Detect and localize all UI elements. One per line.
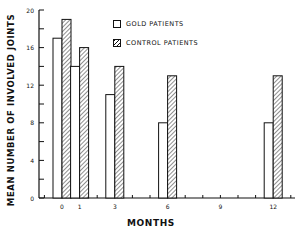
svg-text:12: 12: [269, 203, 277, 210]
hatched-swatch-icon: [113, 39, 121, 47]
x-axis-label: MONTHS: [127, 218, 175, 228]
svg-text:9: 9: [218, 203, 222, 210]
svg-text:6: 6: [166, 203, 170, 210]
legend-item-gold: GOLD PATIENTS: [113, 18, 198, 29]
bar-control: [115, 66, 124, 198]
svg-text:4: 4: [30, 157, 34, 164]
bar-gold: [159, 123, 168, 198]
svg-text:0: 0: [30, 195, 34, 202]
y-axis-label: MEAN NUMBER OF INVOLVED JOINTS: [4, 22, 18, 198]
legend: GOLD PATIENTS CONTROL PATIENTS: [113, 18, 198, 56]
svg-text:20: 20: [26, 7, 34, 14]
svg-text:12: 12: [26, 82, 34, 89]
svg-text:16: 16: [26, 44, 34, 51]
svg-text:3: 3: [113, 203, 117, 210]
svg-text:0: 0: [60, 203, 64, 210]
bar-gold: [71, 66, 80, 198]
bar-gold: [106, 95, 115, 198]
bar-gold: [264, 123, 273, 198]
bar-control: [273, 76, 282, 198]
bar-gold: [53, 38, 62, 198]
bar-control: [168, 76, 177, 198]
legend-item-control: CONTROL PATIENTS: [113, 37, 198, 48]
bar-control: [62, 19, 71, 198]
svg-text:1: 1: [78, 203, 82, 210]
bar-control: [80, 48, 89, 198]
open-swatch-icon: [113, 20, 121, 28]
svg-text:8: 8: [30, 119, 34, 126]
